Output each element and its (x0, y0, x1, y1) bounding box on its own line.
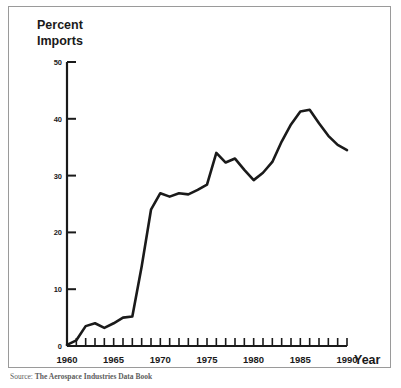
x-tick-label-1975: 1975 (196, 354, 218, 365)
x-tick-label-1960: 1960 (56, 354, 77, 365)
x-tick-label-1970: 1970 (150, 354, 171, 365)
x-axis-title: Year (354, 353, 381, 367)
y-tick-label-20: 20 (54, 228, 62, 237)
y-tick-label-40: 40 (54, 115, 62, 124)
figure-caption: Source: The Aerospace Industries Data Bo… (10, 372, 390, 381)
y-tick-label-10: 10 (54, 285, 62, 294)
y-tick-label-50: 50 (54, 58, 62, 67)
x-tick-label-1980: 1980 (243, 354, 264, 365)
chart-figure: Percent Imports Year 50 40 30 20 10 0 (8, 6, 391, 368)
y-tick-label-0: 0 (58, 342, 62, 351)
x-tick-label-1990: 1990 (336, 354, 357, 365)
line-chart: Percent Imports Year 50 40 30 20 10 0 (9, 7, 392, 369)
data-series-line (67, 110, 347, 345)
x-axis-minor-ticks (67, 338, 347, 346)
x-tick-label-1985: 1985 (290, 354, 312, 365)
y-axis-tick-labels: 50 40 30 20 10 0 (54, 58, 62, 351)
caption-source-text: The Aerospace Industries Data Book (35, 372, 152, 381)
y-axis-title-line1: Percent (37, 18, 84, 32)
x-tick-label-1965: 1965 (103, 354, 125, 365)
y-axis-ticks (67, 62, 76, 346)
caption-source-label: Source: (10, 372, 33, 381)
y-axis-title-line2: Imports (37, 34, 83, 48)
x-axis-tick-labels: 1960 1965 1970 1975 1980 1985 1990 (56, 354, 357, 365)
y-tick-label-30: 30 (54, 172, 62, 181)
